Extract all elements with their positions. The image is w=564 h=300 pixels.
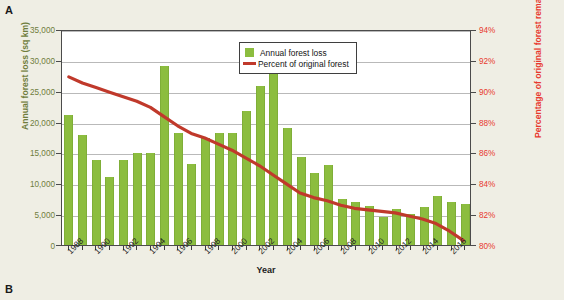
x-axis: 1988199019921994199619982000200220042006… bbox=[61, 246, 471, 276]
y-tick-label-right: 88% bbox=[479, 118, 495, 127]
y-tick-label-left: 20,000 bbox=[30, 118, 55, 127]
panel-label-a: A bbox=[5, 4, 13, 16]
y-tick-mark-right bbox=[471, 61, 476, 62]
y-tick-label-right: 94% bbox=[479, 26, 495, 35]
chart-legend: Annual forest loss Percent of original f… bbox=[239, 42, 357, 74]
x-tick-mark bbox=[82, 246, 83, 250]
y-tick-label-right: 90% bbox=[479, 87, 495, 96]
x-tick-mark bbox=[437, 246, 438, 250]
y-tick-label-right: 92% bbox=[479, 56, 495, 65]
x-tick-mark bbox=[273, 246, 274, 250]
y-tick-label-left: 35,000 bbox=[30, 26, 55, 35]
y-tick-mark-right bbox=[471, 92, 476, 93]
x-tick-mark bbox=[164, 246, 165, 250]
x-tick-mark bbox=[109, 246, 110, 250]
x-tick-mark bbox=[328, 246, 329, 250]
x-tick-mark bbox=[246, 246, 247, 250]
y-tick-label-right: 80% bbox=[479, 242, 495, 251]
y-axis-left: 05,00010,00015,00020,00025,00030,00035,0… bbox=[9, 30, 61, 246]
x-tick-mark bbox=[355, 246, 356, 250]
y-axis-title-right: Percentage of original forest remaining bbox=[533, 0, 543, 163]
y-tick-mark-right bbox=[471, 215, 476, 216]
x-tick-mark bbox=[191, 246, 192, 250]
y-tick-mark-right bbox=[471, 123, 476, 124]
y-tick-label-left: 0 bbox=[50, 242, 55, 251]
y-tick-mark-right bbox=[471, 30, 476, 31]
y-axis-right: 80%82%84%86%88%90%92%94% bbox=[471, 30, 519, 246]
y-tick-label-right: 82% bbox=[479, 211, 495, 220]
legend-label-percent-original-forest: Percent of original forest bbox=[258, 59, 349, 69]
y-tick-label-right: 84% bbox=[479, 180, 495, 189]
legend-label-annual-forest-loss: Annual forest loss bbox=[260, 48, 327, 58]
y-tick-label-right: 86% bbox=[479, 149, 495, 158]
legend-line-icon bbox=[243, 62, 256, 66]
y-tick-label-left: 15,000 bbox=[30, 149, 55, 158]
y-tick-mark-right bbox=[471, 245, 476, 246]
y-tick-label-left: 30,000 bbox=[30, 56, 55, 65]
legend-item-percent-original-forest: Percent of original forest bbox=[245, 58, 349, 69]
y-tick-label-left: 25,000 bbox=[30, 87, 55, 96]
legend-square-icon bbox=[245, 48, 254, 57]
y-tick-label-left: 5,000 bbox=[35, 211, 56, 220]
chart: Annual forest loss (sq km) Percentage of… bbox=[9, 16, 525, 276]
y-tick-label-left: 10,000 bbox=[30, 180, 55, 189]
legend-item-annual-forest-loss: Annual forest loss bbox=[245, 47, 349, 58]
y-tick-mark-right bbox=[471, 184, 476, 185]
x-tick-mark bbox=[410, 246, 411, 250]
y-tick-mark-right bbox=[471, 153, 476, 154]
figure-panel-a-container: A B Annual forest loss (sq km) Percentag… bbox=[0, 0, 564, 300]
panel-label-b: B bbox=[5, 283, 13, 295]
